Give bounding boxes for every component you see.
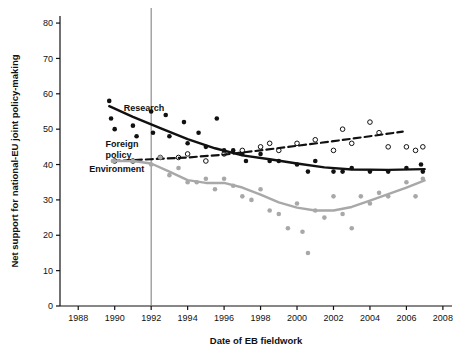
- data-point: [404, 145, 409, 150]
- y-tick-label: 40: [43, 160, 53, 170]
- chart-container: ResearchForeignpolicyEnvironment 0102030…: [0, 0, 471, 360]
- data-point: [331, 194, 336, 199]
- data-point: [404, 180, 409, 185]
- data-point: [286, 226, 291, 231]
- data-point: [176, 166, 181, 171]
- x-tick-label: 1996: [214, 313, 234, 323]
- data-point: [158, 155, 163, 160]
- x-tick-label: 2004: [360, 313, 380, 323]
- y-axis-title: Net support for national-EU joint policy…: [9, 54, 20, 267]
- data-point: [276, 212, 281, 217]
- data-point: [215, 116, 220, 121]
- data-point: [419, 162, 424, 167]
- data-point: [131, 123, 136, 128]
- data-point: [182, 120, 187, 125]
- data-point: [107, 99, 112, 104]
- series-label-research: Research: [124, 103, 165, 113]
- y-tick-label: 70: [43, 54, 53, 64]
- series-label-environment: Environment: [89, 164, 144, 174]
- data-point: [421, 145, 426, 150]
- data-point: [222, 176, 227, 181]
- data-point: [386, 145, 391, 150]
- x-tick-label: 1990: [105, 313, 125, 323]
- data-point: [306, 169, 311, 174]
- data-point: [112, 127, 117, 132]
- data-point: [306, 251, 311, 256]
- x-axis-title: Date of EB fieldwork: [210, 335, 303, 346]
- y-tick-label: 0: [48, 301, 53, 311]
- data-point: [204, 159, 209, 164]
- data-point: [204, 176, 209, 181]
- chart-svg: ResearchForeignpolicyEnvironment 0102030…: [0, 0, 471, 360]
- x-tick-label: 1998: [251, 313, 271, 323]
- x-tick-label: 1994: [178, 313, 198, 323]
- x-tick-label: 2002: [323, 313, 343, 323]
- data-series-layer: [107, 99, 425, 256]
- data-point: [134, 134, 139, 139]
- data-point: [185, 141, 190, 146]
- data-point: [331, 169, 336, 174]
- data-point: [359, 194, 364, 199]
- data-point: [295, 201, 300, 206]
- y-tick-label: 50: [43, 124, 53, 134]
- x-tick-label: 1992: [141, 313, 161, 323]
- data-point: [331, 148, 336, 153]
- x-tick-label: 2000: [287, 313, 307, 323]
- data-point: [340, 127, 345, 132]
- data-point: [258, 152, 263, 157]
- trend-line: [113, 161, 425, 211]
- y-tick-label: 20: [43, 230, 53, 240]
- data-point: [185, 152, 190, 157]
- data-point: [167, 134, 172, 139]
- data-point: [300, 229, 305, 234]
- data-point: [313, 159, 318, 164]
- data-point: [377, 191, 382, 196]
- data-point: [109, 116, 114, 121]
- y-tick-label: 30: [43, 195, 53, 205]
- data-point: [240, 194, 245, 199]
- series-label-foreign-policy: Foreign: [106, 139, 139, 149]
- x-tick-label: 2008: [433, 313, 453, 323]
- data-point: [249, 198, 254, 203]
- y-tick-label: 60: [43, 89, 53, 99]
- data-point: [349, 226, 354, 231]
- data-point: [267, 141, 272, 146]
- data-point: [151, 130, 156, 135]
- data-point: [267, 208, 272, 213]
- data-point: [258, 187, 263, 192]
- data-point: [313, 137, 318, 142]
- data-point: [196, 130, 201, 135]
- y-tick-label: 80: [43, 18, 53, 28]
- data-point: [349, 141, 354, 146]
- x-tick-label: 1988: [68, 313, 88, 323]
- data-point: [340, 212, 345, 217]
- trend-line: [109, 106, 424, 170]
- data-point: [244, 159, 249, 164]
- data-point: [413, 194, 418, 199]
- y-tick-label: 10: [43, 266, 53, 276]
- data-point: [368, 120, 373, 125]
- data-point: [213, 187, 218, 192]
- x-tick-label: 2006: [396, 313, 416, 323]
- data-point: [258, 145, 263, 150]
- data-point: [322, 215, 327, 220]
- data-point: [413, 148, 418, 153]
- series-label-foreign-policy-line2: policy: [106, 150, 132, 160]
